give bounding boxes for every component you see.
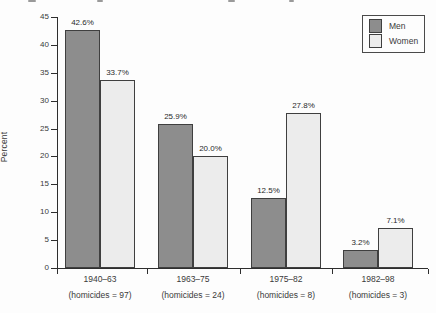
y-tick-label: 40 (23, 40, 49, 50)
bar-men-1940-63 (65, 30, 100, 268)
category-label: 1982–98 (323, 274, 433, 284)
y-tick-label: 0 (23, 263, 49, 273)
y-tick-label: 35 (23, 68, 49, 78)
bar-women-1975-82 (286, 113, 321, 268)
legend-swatch-women (369, 34, 382, 48)
y-tick-label: 15 (23, 179, 49, 189)
cropped-caption-fragment (97, 0, 103, 2)
y-axis-line (57, 17, 58, 268)
y-tick-mark (51, 184, 57, 185)
y-tick-mark (51, 73, 57, 74)
y-tick-mark (51, 156, 57, 157)
y-tick-mark (51, 101, 57, 102)
bar-men-1975-82 (251, 198, 286, 268)
legend-swatch-men (369, 19, 382, 33)
cropped-caption-fragment (289, 0, 294, 2)
cropped-caption-fragment (228, 0, 235, 2)
bar-value-label: 7.1% (368, 216, 423, 226)
y-tick-label: 10 (23, 207, 49, 217)
bar-value-label: 25.9% (148, 112, 203, 122)
y-axis-label: Percent (0, 117, 9, 177)
y-tick-label: 20 (23, 151, 49, 161)
bar-women-1963-75 (193, 156, 228, 268)
x-axis-line (57, 268, 428, 269)
bar-value-label: 27.8% (276, 101, 331, 111)
y-tick-label: 5 (23, 235, 49, 245)
bar-value-label: 33.7% (90, 68, 145, 78)
y-tick-mark (51, 45, 57, 46)
legend: MenWomen (362, 15, 425, 53)
y-tick-label: 25 (23, 124, 49, 134)
cropped-caption-fragment (28, 0, 36, 2)
y-tick-mark (51, 129, 57, 130)
bar-women-1940-63 (100, 80, 135, 268)
bar-value-label: 20.0% (183, 144, 238, 154)
homicide-percent-bar-chart: Percent MenWomen 05101520253035404542.6%… (0, 0, 436, 313)
y-tick-mark (51, 212, 57, 213)
y-tick-label: 45 (23, 12, 49, 22)
y-tick-mark (51, 240, 57, 241)
bar-women-1982-98 (378, 228, 413, 268)
legend-label: Men (389, 21, 406, 31)
bar-men-1982-98 (343, 250, 378, 268)
bar-value-label: 42.6% (55, 18, 110, 28)
category-sublabel: (homicides = 3) (323, 290, 433, 300)
legend-label: Women (389, 36, 418, 46)
y-tick-label: 30 (23, 96, 49, 106)
